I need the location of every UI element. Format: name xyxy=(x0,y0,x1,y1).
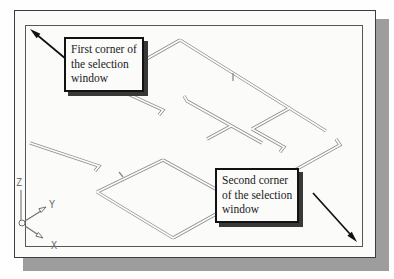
figure: Z Y X First corner of the selection wind… xyxy=(0,0,394,279)
wall-segment-fill xyxy=(97,192,173,238)
callout-line: window xyxy=(222,202,292,217)
y-axis-label: Y xyxy=(49,199,55,210)
first-corner-arrow xyxy=(30,29,66,59)
ucs-origin-icon xyxy=(19,220,25,226)
second-corner-arrow xyxy=(313,193,357,242)
y-axis-line xyxy=(25,211,41,221)
wall-segment-fill xyxy=(180,40,326,131)
second-corner-arrow-line xyxy=(313,193,350,234)
z-axis-label: Z xyxy=(16,177,22,188)
x-axis-arrowhead-icon xyxy=(36,232,43,238)
callout-line: the selection xyxy=(71,57,137,72)
drawing-overlay: Z Y X xyxy=(0,0,394,279)
x-axis-line xyxy=(25,226,37,234)
wall-segment-fill xyxy=(207,126,231,139)
callout-line: First corner of xyxy=(71,42,137,57)
wall-segment-fill xyxy=(30,143,99,171)
callout-line: window xyxy=(71,71,137,86)
callout-second-corner: Second corner of the selection window xyxy=(215,168,299,223)
wall-segment-fill xyxy=(97,160,163,192)
door-jamb-tick xyxy=(119,172,123,177)
callout-line: of the selection xyxy=(222,188,292,203)
callout-line: Second corner xyxy=(222,173,292,188)
wall-segment-fill xyxy=(252,108,290,129)
x-axis-label: X xyxy=(51,240,57,251)
ucs-icon: Z Y X xyxy=(16,177,57,251)
callout-first-corner: First corner of the selection window xyxy=(64,37,144,92)
first-corner-arrow-line xyxy=(36,34,66,59)
